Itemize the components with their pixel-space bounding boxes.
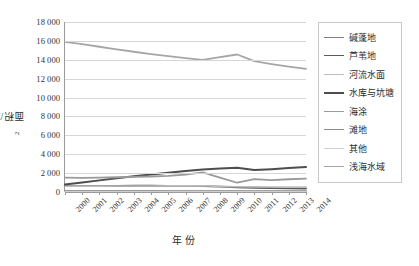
gridline — [65, 135, 306, 136]
legend-item[interactable]: 浅海水域 — [324, 158, 397, 177]
x-axis-tick-mark — [82, 192, 83, 195]
legend-swatch-icon — [324, 92, 344, 94]
series-line — [65, 42, 306, 69]
series-line — [65, 186, 306, 187]
x-axis-tick-mark — [65, 192, 66, 195]
legend-swatch-icon — [324, 55, 344, 56]
legend-item[interactable]: 河流水面 — [324, 65, 397, 84]
x-axis-tick-label: 2013 — [298, 196, 316, 214]
y-axis-tick-label: 10 000 — [36, 93, 60, 103]
x-axis-tick-label: 2004 — [143, 196, 161, 214]
series-line — [65, 167, 306, 184]
x-axis-tick-mark — [306, 192, 307, 195]
y-axis-tick-label: 18 000 — [36, 17, 60, 27]
legend-item-label: 海涂 — [349, 105, 367, 118]
x-axis-tick-label: 2010 — [246, 196, 264, 214]
x-axis-tick-label: 2005 — [160, 196, 178, 214]
x-axis-tick-label: 2009 — [229, 196, 247, 214]
y-axis-tick-label: 16 000 — [36, 36, 60, 46]
x-axis-tick-label: 2007 — [194, 196, 212, 214]
legend-swatch-icon — [324, 148, 344, 149]
x-axis-tick-label: 2014 — [315, 196, 333, 214]
x-axis-tick-label: 2006 — [177, 196, 195, 214]
legend-item-label: 芦苇地 — [349, 49, 376, 62]
x-axis-tick-mark — [117, 192, 118, 195]
x-axis-tick-labels: 2000200120022003200420052006200720082009… — [64, 196, 305, 230]
x-axis-tick-label: 2001 — [91, 196, 109, 214]
legend-item[interactable]: 海涂 — [324, 102, 397, 121]
y-axis-tick-labels: 02 0004 0006 0008 00010 00012 00014 0001… — [18, 16, 62, 198]
y-axis-tick-label: 4 000 — [41, 149, 60, 159]
legend-swatch-icon — [324, 74, 344, 75]
legend-item-label: 滩地 — [349, 123, 367, 136]
y-axis-tick-label: 8 000 — [41, 111, 60, 121]
x-axis-tick-label: 2002 — [108, 196, 126, 214]
legend-swatch-icon — [324, 37, 344, 38]
x-axis-tick-mark — [237, 192, 238, 195]
x-axis-tick-label: 2008 — [211, 196, 229, 214]
legend-item-label: 水库与坑塘 — [349, 86, 394, 99]
x-axis-tick-mark — [220, 192, 221, 195]
x-axis-tick-mark — [168, 192, 169, 195]
x-axis-tick-label: 2000 — [74, 196, 92, 214]
gridline — [65, 154, 306, 155]
gridline — [65, 98, 306, 99]
legend-swatch-icon — [324, 129, 344, 130]
gridline — [65, 79, 306, 80]
y-axis-tick-label: 2 000 — [41, 168, 60, 178]
gridline — [65, 60, 306, 61]
x-axis-tick-mark — [272, 192, 273, 195]
gridline — [65, 116, 306, 117]
y-axis-tick-label: 0 — [56, 187, 60, 197]
x-axis-tick-mark — [99, 192, 100, 195]
x-axis-tick-mark — [203, 192, 204, 195]
y-axis-tick-label: 14 000 — [36, 55, 60, 65]
legend-item[interactable]: 芦苇地 — [324, 47, 397, 66]
legend-item-label: 河流水面 — [349, 68, 385, 81]
series-lines — [65, 22, 306, 192]
legend-item-label: 碱蓬地 — [349, 31, 376, 44]
legend-item[interactable]: 碱蓬地 — [324, 28, 397, 47]
plot-area — [64, 22, 306, 192]
legend-item[interactable]: 其他 — [324, 139, 397, 158]
x-axis-tick-mark — [151, 192, 152, 195]
y-axis-tick-label: 12 000 — [36, 74, 60, 84]
legend-item-label: 浅海水域 — [349, 160, 385, 173]
legend-swatch-icon — [324, 111, 344, 112]
legend-swatch-icon — [324, 166, 344, 167]
gridline — [65, 173, 306, 174]
x-axis-tick-mark — [254, 192, 255, 195]
legend-item[interactable]: 滩地 — [324, 121, 397, 140]
gridline — [65, 22, 306, 23]
x-axis-tick-mark — [289, 192, 290, 195]
x-axis-tick-label: 2012 — [280, 196, 298, 214]
x-axis-tick-mark — [186, 192, 187, 195]
legend-item[interactable]: 水库与坑塘 — [324, 84, 397, 103]
legend-item-label: 其他 — [349, 142, 367, 155]
y-axis-tick-label: 6 000 — [41, 130, 60, 140]
gridline — [65, 41, 306, 42]
x-axis-tick-mark — [134, 192, 135, 195]
chart-figure: 面积/km2 02 0004 0006 0008 00010 00012 000… — [0, 0, 419, 266]
chart-legend: 碱蓬地芦苇地河流水面水库与坑塘海涂滩地其他浅海水域 — [318, 22, 402, 183]
x-axis-tick-label: 2011 — [263, 196, 281, 214]
x-axis-tick-label: 2003 — [125, 196, 143, 214]
x-axis-title: 年份 — [64, 232, 305, 247]
